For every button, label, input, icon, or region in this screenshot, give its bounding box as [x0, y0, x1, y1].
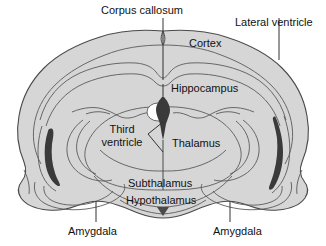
label-amygdala-right: Amygdala [213, 225, 262, 238]
label-subthalamus: Subthalamus [128, 177, 192, 190]
label-thalamus: Thalamus [172, 137, 220, 150]
label-third-ventricle-line1: Third [109, 123, 134, 135]
label-cortex: Cortex [189, 37, 221, 50]
brain-diagram-figure: Corpus callosum Lateral ventricle Cortex… [0, 0, 326, 246]
label-amygdala-left: Amygdala [68, 225, 117, 238]
brain-section-illustration [0, 0, 326, 246]
label-corpus-callosum: Corpus callosum [101, 4, 183, 17]
label-third-ventricle: Third ventricle [96, 123, 148, 148]
label-hypothalamus: Hypothalamus [126, 194, 196, 207]
label-third-ventricle-line2: ventricle [102, 136, 143, 148]
label-hippocampus: Hippocampus [171, 82, 238, 95]
label-lateral-ventricle: Lateral ventricle [235, 16, 313, 29]
